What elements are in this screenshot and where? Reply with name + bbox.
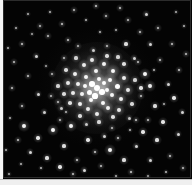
star-point	[103, 135, 106, 138]
star-point	[135, 119, 138, 122]
star-halo	[38, 165, 45, 172]
star-point	[84, 75, 88, 79]
star-point	[27, 13, 29, 15]
star-point	[74, 56, 77, 59]
star-point	[56, 84, 59, 87]
star-cluster-figure	[0, 0, 192, 185]
star-point	[50, 95, 53, 98]
star-point	[87, 90, 92, 95]
star-halo	[73, 156, 81, 164]
star-point	[116, 55, 119, 58]
star-point	[21, 43, 24, 46]
star-halo	[58, 20, 66, 28]
star-point	[83, 84, 87, 88]
star-point	[94, 69, 98, 73]
star-point	[117, 137, 120, 140]
star-halo	[93, 73, 106, 86]
star-halo	[62, 77, 73, 88]
star-halo	[80, 71, 92, 83]
star-halo	[55, 162, 65, 172]
star-point	[8, 173, 10, 175]
star-point	[129, 129, 131, 131]
star-point	[22, 124, 26, 128]
star-halo	[14, 136, 22, 144]
star-point	[145, 13, 148, 16]
star-halo	[169, 93, 179, 103]
star-point	[181, 111, 184, 114]
star-halo	[65, 120, 77, 132]
star-halo	[82, 85, 97, 100]
star-halo	[156, 56, 164, 64]
star-point	[68, 101, 72, 105]
star-halo	[127, 99, 137, 109]
star-point	[86, 138, 89, 141]
star-point	[29, 151, 32, 154]
star-point	[153, 69, 155, 71]
star-point	[45, 65, 47, 67]
star-point	[147, 119, 150, 122]
cluster-core-glow	[51, 42, 143, 134]
star-point	[124, 42, 127, 45]
star-halo	[74, 98, 86, 110]
star-point	[94, 85, 100, 91]
star-point	[172, 96, 175, 99]
star-point	[183, 25, 185, 27]
star-point	[148, 84, 152, 88]
star-halo	[59, 141, 68, 150]
star-halo	[100, 83, 113, 96]
star-point	[76, 159, 79, 162]
star-halo	[144, 80, 155, 91]
star-halo	[18, 40, 26, 48]
star-point	[62, 92, 65, 95]
star-point	[82, 63, 86, 67]
star-halo	[124, 16, 132, 24]
star-halo	[104, 144, 116, 156]
star-halo	[114, 134, 122, 142]
star-point	[119, 97, 123, 101]
star-point	[102, 81, 107, 86]
star-halo	[132, 142, 141, 151]
star-point	[97, 120, 100, 123]
star-halo	[102, 51, 112, 61]
star-point	[122, 62, 126, 66]
star-halo	[108, 112, 118, 122]
star-point	[105, 54, 108, 57]
star-halo	[119, 155, 128, 164]
star-halo	[32, 52, 41, 61]
star-halo	[146, 156, 155, 165]
star-halo	[5, 45, 12, 52]
star-point	[95, 5, 98, 8]
star-halo	[118, 72, 130, 84]
star-halo	[94, 84, 110, 100]
star-point	[69, 124, 73, 128]
star-point	[90, 58, 94, 62]
star-halo	[86, 54, 97, 65]
star-point	[80, 92, 84, 96]
star-point	[61, 23, 64, 26]
star-halo	[103, 73, 117, 87]
star-halo	[54, 98, 62, 106]
star-halo	[97, 29, 104, 36]
star-halo	[150, 101, 159, 110]
star-halo	[10, 58, 18, 66]
star-halo	[84, 76, 100, 92]
star-point	[95, 112, 99, 116]
star-point	[35, 55, 38, 58]
star-halo	[88, 79, 106, 97]
star-point	[73, 9, 76, 12]
star-point	[133, 57, 136, 60]
star-halo	[154, 24, 162, 32]
star-halo	[25, 11, 32, 18]
star-point	[106, 45, 109, 48]
star-halo	[70, 6, 78, 14]
star-halo	[96, 96, 109, 109]
star-point	[63, 57, 66, 60]
star-point	[59, 119, 62, 122]
star-halo	[69, 68, 81, 80]
star-point	[139, 31, 142, 34]
star-point	[175, 11, 177, 13]
star-halo	[127, 127, 134, 134]
star-point	[39, 25, 42, 28]
star-halo	[161, 101, 168, 108]
star-point	[49, 11, 51, 13]
